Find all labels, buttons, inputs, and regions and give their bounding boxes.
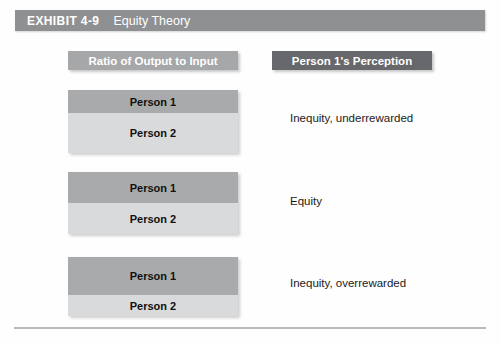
perception-label-row-2: Equity (290, 195, 322, 207)
exhibit-header-bar: EXHIBIT 4-9 Equity Theory (15, 10, 485, 31)
bar-person1-row-1: Person 1 (68, 90, 238, 113)
column-header-perception: Person 1's Perception (272, 51, 432, 70)
bar-person1-row-3: Person 1 (68, 257, 238, 295)
exhibit-number: EXHIBIT 4-9 (27, 14, 99, 28)
perception-label-row-3: Inequity, overrewarded (290, 277, 406, 289)
bar-person2-row-1: Person 2 (68, 113, 238, 153)
bar-person1-row-2: Person 1 (68, 172, 238, 203)
exhibit-figure: EXHIBIT 4-9 Equity Theory Ratio of Outpu… (0, 0, 500, 347)
column-header-ratio: Ratio of Output to Input (68, 51, 238, 70)
perception-label-row-1: Inequity, underrewarded (290, 112, 413, 124)
exhibit-title: Equity Theory (113, 14, 190, 28)
bottom-divider (14, 327, 486, 329)
bar-person2-row-3: Person 2 (68, 295, 238, 316)
bar-group-row-1: Person 1 Person 2 (68, 90, 238, 153)
bar-person2-row-2: Person 2 (68, 203, 238, 234)
bar-group-row-3: Person 1 Person 2 (68, 257, 238, 316)
bar-group-row-2: Person 1 Person 2 (68, 172, 238, 234)
